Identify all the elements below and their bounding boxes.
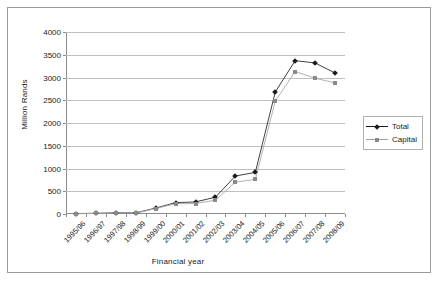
data-point-capital bbox=[74, 212, 78, 216]
x-tick-mark bbox=[245, 214, 246, 217]
data-point-capital bbox=[233, 180, 237, 184]
x-tick-mark bbox=[225, 214, 226, 217]
data-point-capital bbox=[154, 207, 158, 211]
x-tick-mark bbox=[265, 214, 266, 217]
data-point-capital bbox=[333, 81, 337, 85]
data-point-capital bbox=[213, 198, 217, 202]
x-tick-mark bbox=[285, 214, 286, 217]
series-lines bbox=[66, 32, 345, 214]
legend-label-capital: Capital bbox=[392, 135, 417, 144]
x-tick-mark bbox=[106, 214, 107, 217]
x-tick-mark bbox=[345, 214, 346, 217]
x-tick-mark bbox=[86, 214, 87, 217]
legend: Total Capital bbox=[363, 116, 423, 150]
data-point-capital bbox=[174, 202, 178, 206]
chart-frame: Million Rands Financial year 05001000150… bbox=[7, 7, 431, 273]
series-line-capital bbox=[76, 72, 335, 214]
plot-area: 05001000150020002500300035004000 1995/96… bbox=[66, 32, 345, 214]
y-tick-label: 4000 bbox=[43, 28, 61, 37]
y-tick-label: 1500 bbox=[43, 141, 61, 150]
data-point-capital bbox=[194, 202, 198, 206]
data-point-capital bbox=[134, 211, 138, 215]
x-tick-mark bbox=[325, 214, 326, 217]
y-tick-label: 500 bbox=[48, 187, 61, 196]
data-point-capital bbox=[253, 177, 257, 181]
x-tick-mark bbox=[186, 214, 187, 217]
data-point-capital bbox=[94, 211, 98, 215]
y-tick-label: 2500 bbox=[43, 96, 61, 105]
x-tick-mark bbox=[166, 214, 167, 217]
y-tick-label: 3000 bbox=[43, 73, 61, 82]
y-tick-label: 2000 bbox=[43, 119, 61, 128]
legend-item-capital: Capital bbox=[366, 133, 417, 146]
y-axis-title: Million Rands bbox=[20, 45, 29, 165]
data-point-capital bbox=[313, 76, 317, 80]
y-tick-label: 1000 bbox=[43, 164, 61, 173]
data-point-capital bbox=[273, 99, 277, 103]
x-tick-mark bbox=[66, 214, 67, 217]
total-marker-icon bbox=[366, 122, 388, 131]
y-tick-label: 3500 bbox=[43, 50, 61, 59]
x-axis-title: Financial year bbox=[8, 257, 348, 266]
x-tick-mark bbox=[126, 214, 127, 217]
series-line-total bbox=[76, 61, 335, 214]
legend-item-total: Total bbox=[366, 120, 417, 133]
x-tick-mark bbox=[206, 214, 207, 217]
data-point-capital bbox=[114, 211, 118, 215]
y-tick-label: 0 bbox=[57, 210, 61, 219]
x-tick-mark bbox=[146, 214, 147, 217]
capital-marker-icon bbox=[366, 135, 388, 144]
x-tick-mark bbox=[305, 214, 306, 217]
data-point-capital bbox=[293, 70, 297, 74]
legend-label-total: Total bbox=[392, 122, 409, 131]
